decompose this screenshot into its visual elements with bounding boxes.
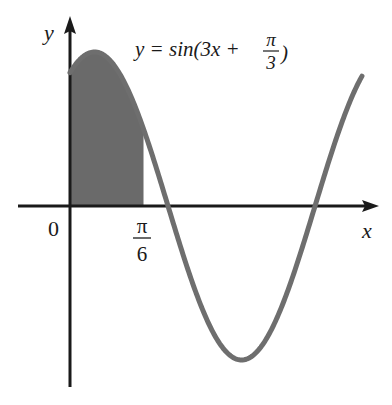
shaded-area — [70, 52, 144, 206]
sine-chart: y x 0 π 6 y = sin(3x + π 3 ) — [0, 0, 392, 405]
origin-label: 0 — [48, 216, 59, 241]
x-axis-label: x — [361, 218, 372, 243]
tick-denominator: 6 — [137, 242, 148, 266]
function-label: y = sin(3x + π 3 ) — [133, 29, 288, 73]
function-label-frac-num: π — [266, 29, 276, 50]
function-label-main: y = sin(3x + — [133, 37, 245, 61]
y-axis-label: y — [42, 20, 54, 45]
x-tick-pi-over-6: π 6 — [133, 214, 151, 266]
function-label-close-paren: ) — [280, 41, 288, 65]
tick-numerator: π — [137, 214, 148, 238]
function-label-frac-den: 3 — [265, 52, 276, 73]
